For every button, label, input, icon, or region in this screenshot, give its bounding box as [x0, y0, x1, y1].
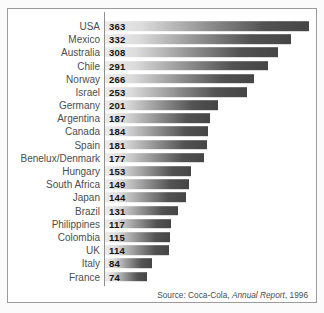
category-label: UK: [8, 245, 100, 256]
bar: [105, 61, 268, 71]
value-label: 149: [109, 179, 125, 190]
chart-row: Israel253: [8, 85, 316, 98]
category-label: Hungary: [8, 166, 100, 177]
chart-frame: USA363Mexico332Australia308Chile291Norwa…: [7, 8, 317, 303]
value-label: 115: [109, 231, 125, 242]
chart-row: USA363: [8, 19, 316, 32]
bar: [105, 34, 291, 44]
category-label: Benelux/Denmark: [8, 152, 100, 163]
value-label: 181: [109, 139, 125, 150]
source-report-title: Annual Report: [232, 290, 285, 300]
source-note: Source: Coca-Cola, Annual Report, 1996: [157, 290, 308, 300]
category-label: Norway: [8, 73, 100, 84]
chart-row: Philippines117: [8, 217, 316, 230]
source-suffix: , 1996: [285, 290, 308, 300]
chart-row: Germany201: [8, 99, 316, 112]
category-label: Italy: [8, 258, 100, 269]
value-label: 363: [109, 20, 125, 31]
chart-row: Italy84: [8, 257, 316, 270]
value-label: 117: [109, 218, 125, 229]
value-label: 177: [109, 152, 125, 163]
category-label: Canada: [8, 126, 100, 137]
chart-row: Spain181: [8, 138, 316, 151]
value-label: 266: [109, 73, 125, 84]
chart-row: Argentina187: [8, 112, 316, 125]
chart-row: Benelux/Denmark177: [8, 151, 316, 164]
category-label: Chile: [8, 60, 100, 71]
chart-row: Brazil131: [8, 204, 316, 217]
category-label: France: [8, 271, 100, 282]
category-label: Spain: [8, 139, 100, 150]
category-label: Argentina: [8, 113, 100, 124]
bar-rows: USA363Mexico332Australia308Chile291Norwa…: [8, 19, 316, 283]
category-label: Mexico: [8, 34, 100, 45]
chart-row: South Africa149: [8, 178, 316, 191]
bar: [105, 74, 254, 84]
value-label: 74: [109, 271, 120, 282]
bar: [105, 48, 278, 58]
category-label: Colombia: [8, 231, 100, 242]
category-label: Germany: [8, 100, 100, 111]
value-label: 201: [109, 100, 125, 111]
chart-row: Japan144: [8, 191, 316, 204]
chart-row: France74: [8, 270, 316, 283]
value-label: 253: [109, 86, 125, 97]
category-label: Israel: [8, 86, 100, 97]
category-label: Brazil: [8, 205, 100, 216]
value-label: 114: [109, 245, 125, 256]
category-label: USA: [8, 20, 100, 31]
value-label: 144: [109, 192, 125, 203]
bar: [105, 21, 309, 31]
chart-row: Colombia115: [8, 230, 316, 243]
category-label: Australia: [8, 47, 100, 58]
category-label: South Africa: [8, 179, 100, 190]
value-label: 332: [109, 34, 125, 45]
value-label: 153: [109, 166, 125, 177]
chart-row: Norway266: [8, 72, 316, 85]
value-label: 131: [109, 205, 125, 216]
value-label: 184: [109, 126, 125, 137]
bar: [105, 87, 247, 97]
chart-row: Canada184: [8, 125, 316, 138]
chart-row: Chile291: [8, 59, 316, 72]
chart-row: Australia308: [8, 46, 316, 59]
value-label: 187: [109, 113, 125, 124]
value-label: 84: [109, 258, 120, 269]
value-label: 308: [109, 47, 125, 58]
value-label: 291: [109, 60, 125, 71]
chart-row: Hungary153: [8, 164, 316, 177]
category-label: Japan: [8, 192, 100, 203]
source-prefix: Source: Coca-Cola,: [157, 290, 232, 300]
category-label: Philippines: [8, 218, 100, 229]
chart-row: UK114: [8, 244, 316, 257]
chart-row: Mexico332: [8, 33, 316, 46]
